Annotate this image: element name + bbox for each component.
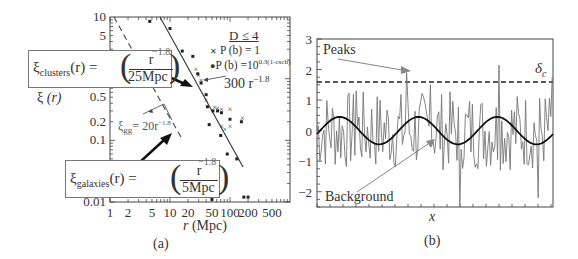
clusters-formula-box: ξclusters(r) = ( r 25Mpc ) [28,50,172,88]
panel-a-ylabel: ξ (r) [37,90,62,106]
svg-text:3: 3 [306,32,313,47]
panel-a-xlabel: r (Mpc) [183,218,227,234]
fit-label-arrow [205,76,226,80]
panel-b-plot: 3210−1−2 [298,32,553,207]
density-field-line [317,65,552,207]
svg-text:1: 1 [107,205,114,220]
panel-b-xlabel: x [429,209,435,225]
svg-text:×: × [223,125,228,134]
svg-text:−1: −1 [298,154,312,169]
svg-text:0: 0 [306,124,313,139]
panel-b-tick-labels: 3210−1−2 [298,32,312,200]
svg-text:0.2: 0.2 [90,114,106,129]
legend-entry-dot: ●P (b) =100.3(1-csch) [210,58,290,71]
svg-text:2: 2 [306,63,313,78]
svg-text:0.1: 0.1 [90,132,106,147]
svg-text:500: 500 [262,205,282,220]
x-marker-icon: ✕ [210,47,217,56]
svg-text:5: 5 [100,28,107,43]
svg-text:−2: −2 [298,185,312,200]
svg-text:×: × [228,122,233,131]
figure-canvas: 12510205010020050010510.50.20.10.01 ××××… [0,0,578,259]
svg-text:0.5: 0.5 [90,89,106,104]
xi-gg-bracket [143,104,172,120]
svg-text:×: × [228,105,233,114]
svg-text:×: × [204,96,209,105]
galaxies-arrow [140,140,164,162]
panel-b-caption: (b) [424,233,440,249]
svg-text:200: 200 [238,205,258,220]
background-label: Background [325,189,393,205]
delta-c-label: δc [535,60,546,79]
xi-gg-label: ξgg= 20r−1.8 [118,119,171,135]
svg-text:5: 5 [149,205,156,220]
galaxies-formula-box: ξgalaxies(r) = ( r 5Mpc ) [65,160,220,198]
fit-label: 300 r−1.8 [224,74,270,92]
legend-title: D ≤ 4 [229,28,259,44]
svg-text:1: 1 [306,93,313,108]
galaxies-exponent: −1.8 [198,156,216,167]
svg-text:10: 10 [164,205,177,220]
background-arrow [357,144,428,192]
legend-entry-x: ✕ P (b) = 1 [210,44,260,56]
peaks-label: Peaks [323,42,356,58]
svg-text:10: 10 [93,9,106,24]
panel-a-caption: (a) [153,236,169,252]
svg-text:2: 2 [125,205,132,220]
clusters-exponent: −1.8 [152,46,170,57]
peaks-arrow [338,59,402,70]
